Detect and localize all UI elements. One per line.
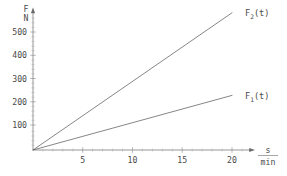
x-axis-arrow-icon — [249, 148, 255, 152]
series-line-f2 — [33, 13, 232, 150]
y-axis-arrow-icon — [31, 8, 35, 14]
svg-text:F1(t): F1(t) — [245, 91, 269, 103]
force-vs-time-line-chart: 100 200 300 400 500 F N — [0, 0, 287, 176]
y-axis-name-label: F — [24, 4, 29, 14]
x-tick-label-20: 20 — [227, 155, 237, 165]
series-line-f1 — [33, 95, 232, 150]
x-axis-name-label: s — [266, 145, 271, 155]
curve-label-f2: F2(t) — [245, 8, 269, 20]
curve-label-f1: F1(t) — [245, 91, 269, 103]
y-tick-label-400: 400 — [12, 50, 27, 60]
x-tick-label-5: 5 — [80, 155, 85, 165]
y-axis-group: 100 200 300 400 500 F N — [12, 4, 36, 151]
x-tick-label-10: 10 — [128, 155, 138, 165]
y-axis-unit-label: N — [24, 13, 29, 23]
x-tick-label-15: 15 — [177, 155, 187, 165]
y-tick-label-300: 300 — [12, 74, 27, 84]
y-tick-label-200: 200 — [12, 97, 27, 107]
series-group — [33, 13, 232, 150]
y-tick-label-100: 100 — [12, 120, 27, 130]
curve-label-f1-tail: (t) — [254, 91, 270, 101]
chart-canvas: 100 200 300 400 500 F N — [0, 0, 287, 176]
curve-label-f2-tail: (t) — [254, 8, 270, 18]
x-axis-unit-label: min — [261, 157, 276, 167]
svg-text:F2(t): F2(t) — [245, 8, 269, 20]
y-tick-label-500: 500 — [12, 27, 27, 37]
x-axis-group: 5 10 15 20 s min — [33, 145, 278, 167]
